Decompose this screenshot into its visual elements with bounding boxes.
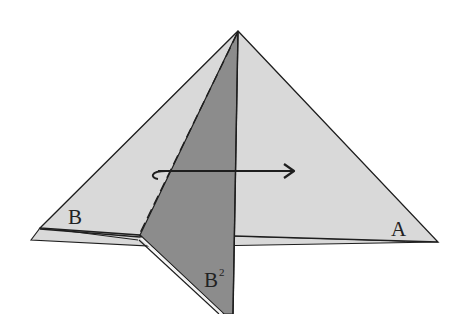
main-triangle (40, 31, 438, 242)
label-a: A (391, 217, 407, 241)
label-b2-superscript: 2 (219, 266, 225, 278)
label-b2: B (204, 268, 218, 292)
label-b: B (68, 205, 82, 229)
origami-diagram: B A B 2 (0, 0, 465, 314)
